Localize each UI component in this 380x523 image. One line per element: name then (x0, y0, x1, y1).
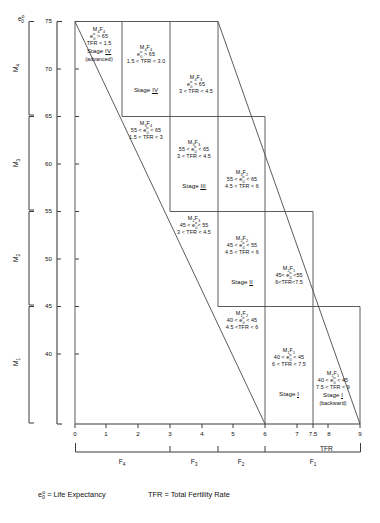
cell-stage-m4f4-b: Stage IV (134, 86, 158, 94)
cell-life-expectancy: 45< eo0 <55 (275, 272, 303, 279)
x-tick-label: 0 (73, 430, 76, 437)
cell-life-expectancy: eo0 > 65 (179, 81, 213, 88)
x-tick-label: 2 (136, 430, 139, 437)
cell-tfr: 3 < TFR < 4.5 (179, 88, 213, 95)
cell-tfr: 7.5 < TFR < 9 (316, 384, 350, 391)
cell-label-m2f2: M2F2 45 < eo0 < 55 4.5 < TFR < 6 (225, 235, 259, 256)
cell-life-expectancy: 40 < eo0 < 45 (316, 377, 350, 384)
x-tick-label: 7.5 (309, 430, 318, 437)
x-tick-label: 6 (263, 430, 266, 437)
x-tick-label: 7 (295, 430, 298, 437)
cell-label-m4f3: M4F3 eo0 > 65 3 < TFR < 4.5 (179, 74, 213, 95)
cell-tfr: 3 < TFR < 4.5 (177, 229, 211, 236)
m-group-label-m1: M1 (12, 358, 19, 366)
m-group-label-m4: M4 (12, 64, 19, 72)
m-group-bracket-layer (12, 21, 42, 441)
cell-stage-m3f3: Stage III (182, 182, 206, 190)
cell-life-expectancy: 45 < eo0< 55 (177, 222, 211, 229)
x-tick-label: 1 (104, 430, 107, 437)
cell-tfr: 3 < TFR < 4.5 (177, 153, 211, 160)
cell-label-m3f4: M3F4 55 < eo0 < 65 1.5 < TFR < 3 (129, 120, 163, 141)
cell-label-m3f2: M3F2 55 < eo0 < 65 4.5 < TFR < 6 (225, 169, 259, 190)
cell-stage-m2f2: Stage II (231, 278, 253, 286)
cell-label-m1f1-a: M1F1 40 < eo0 < 45 6 < TFR < 7.5 (272, 347, 306, 368)
cell-tfr: 1.5 < TFR < 3 (129, 134, 163, 141)
cell-tfr: 4.5 < TFR < 6 (225, 249, 259, 256)
cell-life-expectancy: 55 < eo0 < 65 (177, 146, 211, 153)
cell-label-m2f1: M2F1 45< eo0 <55 6<TFR<7.5 (275, 265, 303, 286)
legend-life-expectancy: eo0 = Life Expectancy (38, 490, 106, 499)
cell-label-m3f3: M3F3 55 < eo0 < 65 3 < TFR < 4.5 (177, 139, 211, 160)
cell-label-m4f4-a: M4F4 eo0 > 65 TFR < 1.5 Stage IV (advanc… (85, 26, 112, 63)
cell-life-expectancy: 40 < eo0 < 45 (226, 317, 258, 324)
x-tick-label: 8 (327, 430, 330, 437)
cell-life-expectancy: 55 < eo0 < 65 (129, 127, 163, 134)
f-group-bracket-layer (68, 441, 368, 463)
cell-life-expectancy: eo0 > 65 (85, 33, 112, 40)
x-tick-label: 3 (168, 430, 171, 437)
f-group-label-f3: F3 (191, 458, 198, 465)
x-tick-label: 5 (231, 430, 234, 437)
cell-label-m1f2: M1F2 40 < eo0 < 45 4.5 <TFR < 6 (226, 310, 258, 331)
m-group-label-m3: M3 (12, 159, 19, 167)
cell-tfr: TFR < 1.5 (85, 40, 112, 47)
cell-life-expectancy: 45 < eo0 < 55 (225, 242, 259, 249)
cell-tfr: 4.5 <TFR < 6 (226, 324, 258, 331)
cell-label-m2f3: M2F3 45 < eo0< 55 3 < TFR < 4.5 (177, 215, 211, 236)
m-group-label-m2: M2 (12, 254, 19, 262)
cell-label-m1f1-b: M1F1 40 < eo0 < 45 7.5 < TFR < 9 Stage I… (316, 370, 350, 407)
cell-life-expectancy: 55 < eo0 < 65 (225, 176, 259, 183)
legend-tfr: TFR = Total Fertility Rate (148, 490, 230, 499)
cell-stage-note: (advanced) (85, 56, 112, 63)
cell-life-expectancy: 40 < eo0 < 45 (272, 354, 306, 361)
f-group-label-f4: F4 (119, 458, 126, 465)
x-tick-label: 4 (200, 430, 203, 437)
cell-stage: Stage IV (85, 47, 112, 55)
chart-figure: 75 70 65 60 55 50 45 40 eo0 M4 M3 M2 M1 … (0, 0, 380, 523)
x-tick-label: 9 (358, 430, 361, 437)
cell-stage: Stage I (316, 391, 350, 399)
cell-stage-note: (backward) (316, 400, 350, 407)
cell-tfr: 6<TFR<7.5 (275, 279, 303, 286)
cell-label-m4f4-b: M4F4 eo0 > 65 1.5 < TFR < 3.0 (127, 44, 165, 65)
cell-tfr: 4.5 < TFR < 6 (225, 183, 259, 190)
legend-life-expectancy-text: = Life Expectancy (47, 490, 106, 499)
cell-tfr: 6 < TFR < 7.5 (272, 361, 306, 368)
cell-tfr: 1.5 < TFR < 3.0 (127, 58, 165, 65)
f-group-label-f2: F2 (238, 458, 245, 465)
cell-stage-m1f1-a: Stage I (279, 390, 299, 398)
cell-life-expectancy: eo0 > 65 (127, 51, 165, 58)
f-group-label-f1: F1 (310, 458, 317, 465)
